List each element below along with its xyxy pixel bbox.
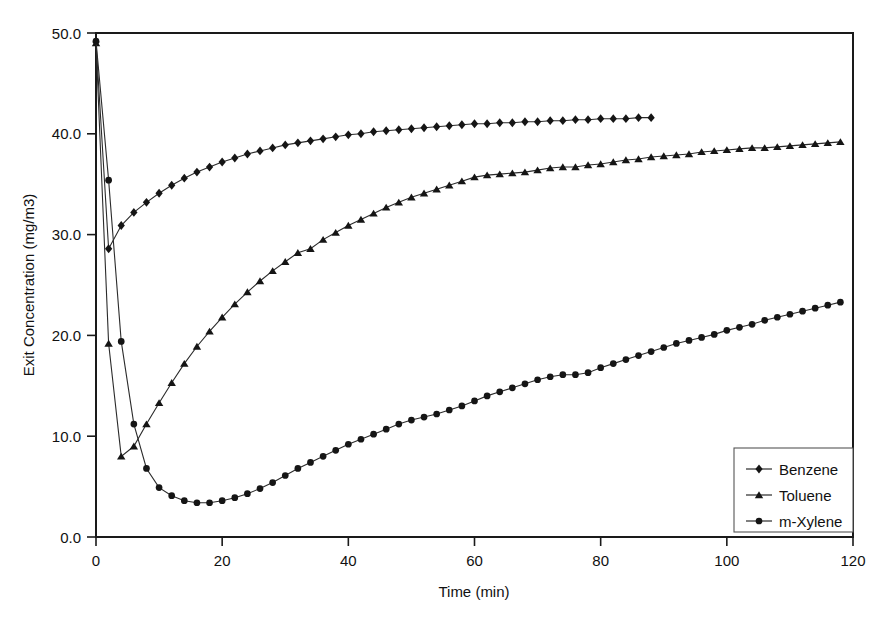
marker-circle [93,38,100,45]
x-tick-label: 120 [840,552,865,569]
marker-triangle [432,186,440,193]
marker-triangle [104,340,112,347]
marker-diamond [458,120,465,129]
marker-triangle [319,236,327,243]
marker-circle [295,465,302,472]
marker-diamond [534,117,541,126]
marker-triangle [155,399,163,406]
marker-diamond [610,114,617,123]
y-tick-label: 40.0 [52,125,81,142]
marker-circle [471,398,478,405]
marker-circle [749,321,756,328]
marker-circle [395,421,402,428]
marker-circle [383,426,390,433]
chart-legend[interactable]: BenzeneToluenem-Xylene [734,448,853,532]
marker-diamond [294,138,301,147]
y-tick-label: 30.0 [52,226,81,243]
marker-diamond [206,163,213,172]
marker-triangle [130,443,138,450]
marker-triangle [344,222,352,229]
marker-diamond [597,114,604,123]
marker-circle [534,376,541,383]
marker-diamond [584,115,591,124]
marker-circle [269,479,276,486]
x-axis-title: Time (min) [438,583,509,600]
marker-diamond [231,154,238,163]
marker-circle [824,302,831,309]
marker-circle [723,327,730,334]
marker-triangle [294,249,302,256]
marker-circle [496,389,503,396]
marker-circle [509,384,516,391]
legend-label: Toluene [779,487,832,504]
marker-circle [446,407,453,414]
marker-diamond [483,119,490,128]
marker-diamond [408,124,415,133]
marker-diamond [496,118,503,127]
marker-circle [219,497,226,504]
marker-circle [547,373,554,380]
marker-circle [421,414,428,421]
marker-circle [307,459,314,466]
marker-triangle [180,360,188,367]
x-tick-label: 40 [340,552,357,569]
marker-triangle [193,343,201,350]
marker-diamond [244,150,251,159]
marker-diamond [635,113,642,122]
marker-diamond [395,125,402,134]
marker-diamond [256,147,263,156]
marker-circle [761,317,768,324]
marker-circle [585,369,592,376]
marker-circle [686,337,693,344]
marker-circle [131,421,138,428]
y-tick-label: 50.0 [52,25,81,42]
marker-diamond [509,118,516,127]
marker-triangle [458,177,466,184]
legend-label: Benzene [779,461,838,478]
marker-circle [433,411,440,418]
marker-circle [320,453,327,460]
x-tick-label: 20 [214,552,231,569]
chart-figure: 0.010.020.030.040.050.0 020406080100120 … [0,0,890,635]
marker-diamond [521,117,528,126]
marker-circle [358,436,365,443]
marker-circle [623,356,630,363]
chart-canvas: 0.010.020.030.040.050.0 020406080100120 … [0,0,890,635]
x-axis: 020406080100120 [92,537,866,569]
marker-diamond [155,189,162,198]
marker-triangle [369,210,377,217]
marker-circle [370,431,377,438]
marker-diamond [282,140,289,149]
marker-circle [118,338,125,345]
marker-diamond [446,121,453,130]
marker-circle [572,371,579,378]
x-tick-label: 0 [92,552,100,569]
marker-circle [408,417,415,424]
marker-diamond [572,115,579,124]
marker-triangle [382,204,390,211]
x-tick-label: 60 [466,552,483,569]
marker-diamond [433,122,440,131]
marker-triangle [142,420,150,427]
marker-circle [105,177,112,184]
marker-circle [711,331,718,338]
marker-diamond [383,126,390,135]
y-tick-label: 10.0 [52,428,81,445]
marker-circle [522,380,529,387]
marker-diamond [370,127,377,136]
marker-circle [231,494,238,501]
marker-triangle [407,194,415,201]
marker-circle [156,484,163,491]
marker-diamond [219,158,226,167]
marker-diamond [420,123,427,132]
marker-circle [698,334,705,341]
marker-circle [787,311,794,318]
marker-diamond [471,119,478,128]
marker-triangle [357,216,365,223]
marker-circle [559,371,566,378]
marker-circle [143,465,150,472]
marker-diamond [559,116,566,125]
marker-diamond [319,134,326,143]
marker-triangle [445,182,453,189]
marker-diamond [143,198,150,207]
